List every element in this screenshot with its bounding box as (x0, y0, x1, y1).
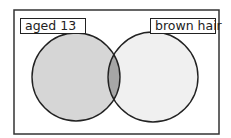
label-brown-hair: brown hair (150, 18, 216, 34)
label-aged-13: aged 13 (20, 18, 86, 34)
